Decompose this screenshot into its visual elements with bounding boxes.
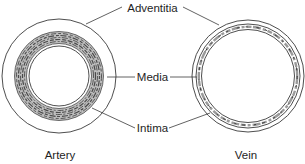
artery-cross-section <box>2 19 116 133</box>
intima-leader-right <box>169 113 210 128</box>
vein-intima-ring <box>202 30 295 123</box>
intima-leader-left <box>92 108 135 128</box>
media-label: Media <box>137 71 169 83</box>
adventitia-leader-left <box>86 7 122 24</box>
adventitia-leader-right <box>183 7 219 25</box>
vein-cross-section <box>192 20 304 132</box>
intima-label: Intima <box>137 122 169 134</box>
vessel-diagram: Adventitia Media Intima Artery Vein <box>0 0 305 164</box>
artery-intima-ring <box>29 46 89 106</box>
vein-caption: Vein <box>235 149 257 161</box>
vein-adventitia-ring <box>192 20 304 132</box>
vein-media-outer-ring <box>196 24 300 128</box>
adventitia-label: Adventitia <box>127 2 178 14</box>
artery-caption: Artery <box>45 149 76 161</box>
